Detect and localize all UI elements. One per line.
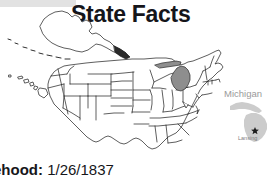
long-island <box>202 93 212 95</box>
border-sc-nc <box>186 117 197 123</box>
contiguous-us-outline <box>48 50 223 149</box>
statehood-fact-line: tehood: 1/26/1837 <box>0 160 114 179</box>
statehood-label: tehood: <box>0 161 43 178</box>
state-alaska <box>40 11 126 56</box>
chesapeake-bay <box>196 106 199 114</box>
michigan-inset-label: Michigan <box>224 88 262 99</box>
state-facts-slide: State Facts <box>0 0 272 179</box>
alaska-panhandle <box>114 46 130 59</box>
inset-upper-peninsula <box>230 102 262 113</box>
statehood-value: 1/26/1837 <box>47 161 114 178</box>
lansing-capital-label: Lansing <box>238 135 257 142</box>
us-map <box>0 6 240 166</box>
border-ga-fl <box>168 140 182 143</box>
state-hawaii <box>9 75 48 98</box>
cape-cod <box>216 79 220 82</box>
